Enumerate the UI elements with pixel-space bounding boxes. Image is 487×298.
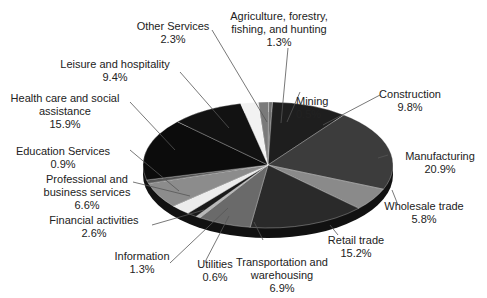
label-value: 1.3% — [129, 263, 154, 275]
label-value: 15.9% — [49, 118, 80, 130]
label-text: Information — [114, 250, 169, 262]
label-financial: Financial activities2.6% — [49, 214, 139, 239]
label-text: Leisure and hospitality — [60, 58, 170, 70]
pie-slices — [143, 102, 393, 228]
label-value: 5.8% — [411, 213, 436, 225]
label-value: 6.9% — [269, 282, 294, 294]
label-professional: Professional andbusiness services6.6% — [44, 173, 131, 211]
pie-chart: Mining0.5%Construction9.8%Manufacturing2… — [0, 0, 487, 298]
label-retail: Retail trade15.2% — [328, 234, 384, 259]
label-other: Other Services2.3% — [137, 20, 210, 45]
label-text: Mining — [296, 95, 328, 107]
label-agriculture: Agriculture, forestry,fishing, and hunti… — [230, 10, 328, 48]
label-value: 9.4% — [102, 71, 127, 83]
label-value: 1.3% — [266, 36, 291, 48]
label-text: Manufacturing — [405, 150, 475, 162]
label-manufacturing: Manufacturing20.9% — [405, 150, 475, 175]
label-text: Wholesale trade — [384, 200, 464, 212]
label-value: 2.3% — [160, 33, 185, 45]
label-text: fishing, and hunting — [231, 23, 326, 35]
label-value: 20.9% — [424, 163, 455, 175]
label-text: Utilities — [197, 258, 233, 270]
label-text: Education Services — [16, 145, 111, 157]
label-value: 2.6% — [81, 227, 106, 239]
label-value: 0.9% — [50, 158, 75, 170]
label-transport: Transportation andwarehousing6.9% — [236, 256, 328, 294]
label-text: assistance — [39, 105, 91, 117]
label-information: Information1.3% — [114, 250, 169, 275]
label-text: business services — [44, 186, 131, 198]
label-value: 9.8% — [397, 101, 422, 113]
label-text: Transportation and — [236, 256, 328, 268]
label-value: 0.6% — [202, 271, 227, 283]
label-text: Construction — [379, 88, 441, 100]
label-wholesale: Wholesale trade5.8% — [384, 200, 464, 225]
label-text: Retail trade — [328, 234, 384, 246]
label-text: Agriculture, forestry, — [230, 10, 328, 22]
label-text: Professional and — [46, 173, 128, 185]
label-construction: Construction9.8% — [379, 88, 441, 113]
label-text: Financial activities — [49, 214, 139, 226]
label-text: Health care and social — [11, 92, 120, 104]
label-health: Health care and socialassistance15.9% — [11, 92, 120, 130]
label-value: 6.6% — [74, 199, 99, 211]
label-value: 0.5% — [296, 108, 321, 120]
label-text: Other Services — [137, 20, 210, 32]
label-value: 15.2% — [340, 247, 371, 259]
label-education: Education Services0.9% — [16, 145, 111, 170]
label-utilities: Utilities0.6% — [197, 258, 233, 283]
label-text: warehousing — [250, 269, 313, 281]
label-leisure: Leisure and hospitality9.4% — [60, 58, 170, 83]
